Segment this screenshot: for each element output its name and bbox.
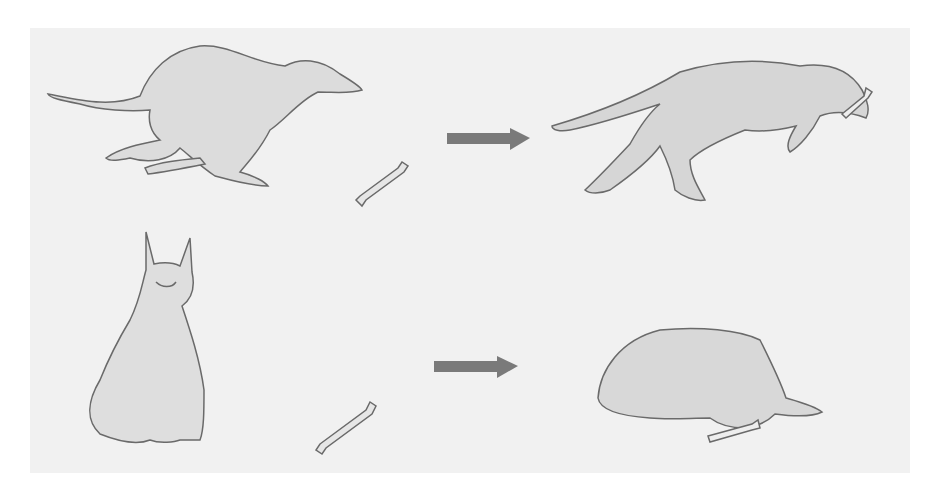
- arrow-right-icon: [434, 356, 518, 378]
- running-dog: [48, 46, 362, 186]
- bone-icon: [316, 402, 376, 454]
- thin-dog-with-bone: [552, 61, 872, 200]
- bone-icon: [356, 162, 408, 206]
- arrow-right-icon: [447, 128, 530, 150]
- sitting-dog: [90, 232, 204, 442]
- illustration: [0, 0, 940, 482]
- lying-dog-with-bone: [598, 328, 822, 442]
